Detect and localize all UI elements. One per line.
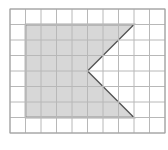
grid-diagram [0,0,168,150]
